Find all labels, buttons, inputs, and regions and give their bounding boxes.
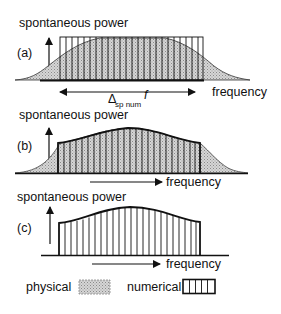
figure-canvas: spontaneous power (a) frequency Δ [0, 0, 281, 314]
bandwidth-var: f [144, 88, 149, 102]
panel-c: spontaneous power (c) frequency [17, 190, 229, 271]
legend-swatch-physical [79, 280, 110, 294]
panel-label-c: (c) [17, 221, 32, 235]
legend-swatch-numerical [183, 280, 215, 294]
x-axis-label-b: frequency [166, 175, 222, 189]
x-axis-label-c: frequency [166, 257, 222, 271]
y-axis-label-c: spontaneous power [17, 190, 126, 204]
panel-a: spontaneous power (a) frequency Δ [15, 16, 268, 109]
y-axis-label-b: spontaneous power [19, 108, 128, 122]
panel-b: spontaneous power (b) frequency [15, 108, 248, 189]
panel-label-a: (a) [17, 46, 32, 60]
legend: physical numerical [26, 280, 215, 295]
y-axis-label-a: spontaneous power [19, 16, 128, 30]
x-axis-label-a: frequency [212, 85, 268, 99]
numerical-bars-c [59, 207, 200, 255]
panel-label-b: (b) [17, 139, 32, 153]
legend-label-numerical: numerical [127, 280, 181, 294]
physical-spectrum-a [15, 38, 250, 80]
physical-spectrum-b [15, 128, 248, 173]
legend-label-physical: physical [26, 280, 71, 294]
